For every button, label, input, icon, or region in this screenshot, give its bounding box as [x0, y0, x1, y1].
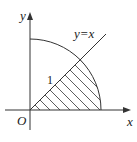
line-y-equals-x — [30, 34, 106, 110]
origin-label: O — [17, 113, 27, 128]
y-axis-arrow-icon — [27, 12, 33, 20]
diagram: y x O y=x 1 — [0, 0, 137, 142]
line-label: y=x — [72, 26, 95, 41]
radius-label: 1 — [47, 73, 53, 87]
shaded-sector — [0, 40, 137, 120]
y-axis-label: y — [18, 8, 26, 23]
x-axis-arrow-icon — [123, 107, 131, 113]
x-axis-label: x — [126, 114, 133, 129]
